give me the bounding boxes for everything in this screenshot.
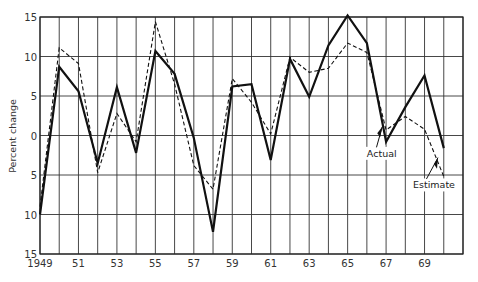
x-tick-label: 61 [264,258,277,269]
chart-grid [40,17,463,254]
y-axis-title: Percent change [7,99,18,173]
annotation-estimate-label: Estimate [413,179,455,190]
y-tick-label: 5 [31,170,37,181]
x-tick-label: 63 [303,258,316,269]
chart-series [40,15,444,232]
x-tick-label: 53 [111,258,124,269]
y-tick-label: 10 [24,210,37,221]
x-tick-label: 55 [149,258,162,269]
line-chart: 15105051015 194951535557596163656769 Per… [0,0,478,282]
y-axis-tick-labels: 15105051015 [24,12,37,260]
x-axis-tick-labels: 194951535557596163656769 [27,258,431,269]
annotation-actual-label: Actual [367,148,397,159]
y-tick-label: 5 [31,91,37,102]
x-tick-label: 65 [341,258,354,269]
x-tick-label: 51 [72,258,85,269]
x-tick-label: 69 [418,258,431,269]
y-tick-label: 10 [24,52,37,63]
x-tick-label: 59 [226,258,239,269]
series-estimate-line [40,22,444,207]
x-tick-label: 1949 [27,258,52,269]
series-actual-line [40,15,444,232]
x-tick-label: 67 [380,258,393,269]
y-tick-label: 0 [31,131,37,142]
arrowhead-icon [434,158,438,169]
x-tick-label: 57 [187,258,200,269]
y-tick-label: 15 [24,12,37,23]
chart-annotations: ActualEstimate [365,127,459,192]
